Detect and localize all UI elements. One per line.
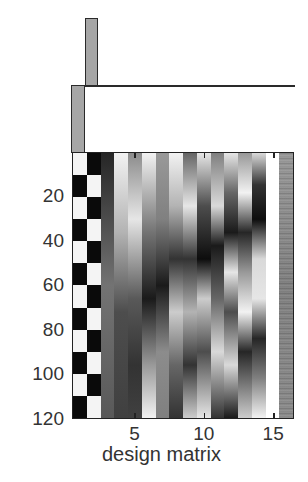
design-matrix-column [183,153,197,418]
y-tick-label: 80 [4,320,64,339]
design-matrix-column [101,153,115,418]
design-matrix-column [169,153,183,418]
design-matrix-column [156,153,170,418]
design-matrix-column [128,153,142,418]
design-matrix-column [211,153,225,418]
contrast-1-baseline [85,85,295,87]
design-matrix-column [224,153,238,418]
contrast-2-bar [71,85,85,153]
x-tick-mark [134,153,136,158]
design-matrix-column [266,153,280,418]
x-tick-mark [273,153,275,158]
design-matrix-column [87,153,101,418]
design-matrix-image [72,152,294,419]
x-tick-mark [204,153,206,158]
x-tick-mark [204,413,206,418]
design-matrix-column [142,153,156,418]
y-tick-label: 40 [4,231,64,250]
y-tick-label: 60 [4,275,64,294]
x-tick-label: 10 [193,424,214,443]
y-tick-label: 100 [4,364,64,383]
y-tick-label: 20 [4,186,64,205]
design-matrix-column [252,153,266,418]
design-matrix-column [279,153,293,418]
design-matrix-column [114,153,128,418]
x-tick-mark [273,413,275,418]
x-tick-label: 15 [263,424,284,443]
x-tick-mark [134,413,136,418]
x-axis-label: design matrix [102,443,221,465]
contrast-1-bar [85,18,98,86]
design-matrix-column [197,153,211,418]
design-matrix-column [73,153,87,418]
contrast-plots [0,0,308,152]
y-tick-label: 120 [4,409,64,428]
x-tick-label: 5 [129,424,140,443]
design-matrix-column [238,153,252,418]
